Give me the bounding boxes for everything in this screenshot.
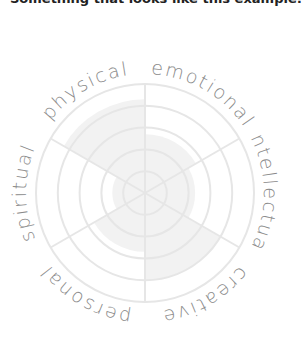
label-emotional: emotional [150, 56, 260, 131]
wheel-of-life-chart: emotionalintellectualcreativepersonalspi… [0, 0, 307, 340]
label-spiritual: spiritual [8, 140, 39, 245]
label-personal: personal [35, 261, 132, 329]
